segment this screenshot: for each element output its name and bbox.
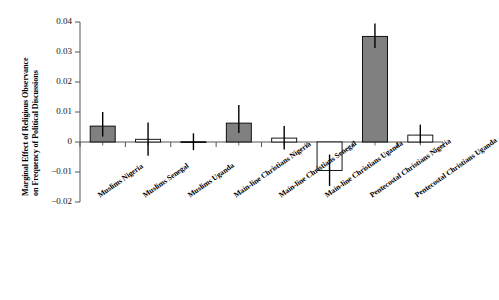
bar-group	[226, 105, 251, 142]
y-axis-tick-label: 0	[32, 136, 72, 146]
y-axis-tick-label: 0.02	[32, 76, 72, 86]
bar-group	[90, 112, 115, 142]
bar-group	[136, 123, 161, 156]
bar-group	[408, 125, 433, 144]
bar-group	[362, 24, 387, 143]
y-axis-tick-label: 0.03	[32, 46, 72, 56]
bar-group	[181, 133, 206, 150]
y-axis-tick-label: −0.02	[32, 196, 72, 206]
y-axis-tick-label: −0.01	[32, 166, 72, 176]
bar-group	[272, 126, 297, 149]
y-axis-tick-label: 0.01	[32, 106, 72, 116]
bar	[362, 36, 387, 142]
y-axis-tick-label: 0.04	[32, 16, 72, 26]
